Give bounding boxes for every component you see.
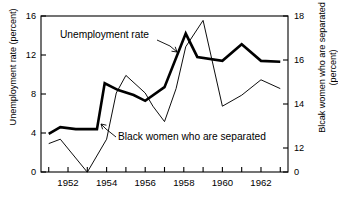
y-axis-label-right-line2: (percent) <box>327 0 338 143</box>
y-tick-label-right: 14 <box>294 99 304 109</box>
y-tick-label-right: 12 <box>294 143 304 153</box>
x-tick-label: 1956 <box>135 177 156 188</box>
y-tick-label-left: 12 <box>26 50 36 60</box>
black-women-separated-label: Black women who are separated <box>118 131 266 142</box>
leader-line-unemployment <box>157 40 177 52</box>
y-tick-label-right: 0 <box>294 167 299 177</box>
series-line-unemployment-rate <box>49 34 281 134</box>
y-tick-label-right: 18 <box>294 11 304 21</box>
leader-line-black-women <box>101 124 116 137</box>
y-tick-label-left: 16 <box>26 11 36 21</box>
y-tick-label-left: 8 <box>31 89 36 99</box>
y-tick-label-right: 16 <box>294 55 304 65</box>
x-tick-label: 1954 <box>96 177 118 188</box>
y-axis-label-right: Blcak women who are separated (percent) <box>317 0 338 143</box>
y-tick-label-left: 0 <box>31 167 36 177</box>
y-tick-label-left: 4 <box>31 128 36 138</box>
unemployment-rate-label: Unemployment rate <box>60 29 149 40</box>
x-tick-label: 1962 <box>250 177 271 188</box>
y-axis-label-right-line1: Blcak women who are separated <box>317 0 328 143</box>
x-tick-label: 1952 <box>57 177 78 188</box>
y-axis-label-left: Unemployment rate (percent) <box>8 0 18 142</box>
chart-annotations: Unemployment rateBlack women who are sep… <box>60 29 266 142</box>
x-tick-label: 1960 <box>212 177 233 188</box>
x-tick-label: 1958 <box>173 177 194 188</box>
